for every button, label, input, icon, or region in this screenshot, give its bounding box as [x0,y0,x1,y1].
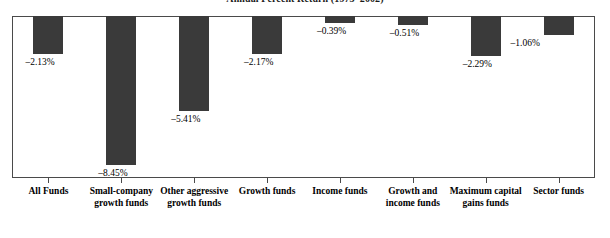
axis-tick [340,178,341,183]
bar [33,16,63,54]
bar [544,16,574,35]
axis-tick [486,178,487,183]
chart-title: Annual Percent Return (1973–2002) [0,0,610,4]
axis-tick [559,178,560,183]
bar [471,16,501,56]
axis-tick [121,178,122,183]
category-labels: All FundsSmall-company growth fundsOther… [12,186,595,238]
category-label: Maximum capital gains funds [449,186,522,209]
axis-ticks [12,178,595,184]
bar-value-label: –2.17% [244,57,273,67]
category-label: Small-company growth funds [85,186,158,209]
axis-tick [267,178,268,183]
bar-value-label: –1.06% [511,38,540,48]
bar-value-label: –2.13% [25,57,54,67]
bar [325,16,355,23]
bars-layer: –2.13%–8.45%–5.41%–2.17%–0.39%–0.51%–2.2… [12,16,595,178]
bar [252,16,282,54]
bar-value-label: –0.51% [390,28,419,38]
bar [398,16,428,25]
bar-value-label: –8.45% [98,168,127,178]
bar-value-label: –2.29% [463,59,492,69]
category-label: All Funds [12,186,85,198]
category-label: Income funds [304,186,377,198]
axis-tick [48,178,49,183]
bar [179,16,209,111]
bar-value-label: –0.39% [317,26,346,36]
axis-tick [194,178,195,183]
category-label: Growth and income funds [376,186,449,209]
category-label: Sector funds [522,186,595,198]
bar [106,16,136,165]
axis-tick [413,178,414,183]
category-label: Growth funds [231,186,304,198]
category-label: Other aggressive growth funds [158,186,231,209]
bar-value-label: –5.41% [171,114,200,124]
